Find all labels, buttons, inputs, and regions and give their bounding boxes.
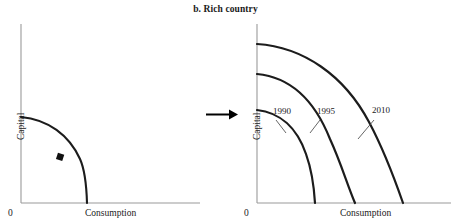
left-x-axis-label: Consumption <box>85 208 136 218</box>
left-y-axis-label: Capital <box>16 113 26 140</box>
left-chart-svg <box>0 0 200 224</box>
curve-label-2010: 2010 <box>372 105 390 115</box>
chart-panel-left: Capital Consumption 0 <box>0 0 200 224</box>
right-y-axis-label: Capital <box>252 113 262 140</box>
chart-panel-right: Capital Consumption 0 1990 1995 2010 <box>236 0 436 224</box>
ppf-curve-1990 <box>257 110 315 203</box>
right-chart-svg <box>236 0 451 224</box>
curve-label-1990: 1990 <box>273 106 291 116</box>
ppf-curve-initial <box>21 117 87 203</box>
right-x-axis-label: Consumption <box>340 208 391 218</box>
figure-container: b. Rich country Capital Consumption 0 <box>0 0 451 224</box>
leader-line-1995 <box>310 120 320 133</box>
allocation-point-marker <box>56 153 64 161</box>
left-origin-label: 0 <box>8 208 13 218</box>
ppf-curve-1995 <box>257 74 355 203</box>
transition-arrow-icon <box>200 100 240 130</box>
leader-line-2010 <box>358 120 374 139</box>
right-origin-label: 0 <box>244 208 249 218</box>
curve-label-1995: 1995 <box>317 106 335 116</box>
